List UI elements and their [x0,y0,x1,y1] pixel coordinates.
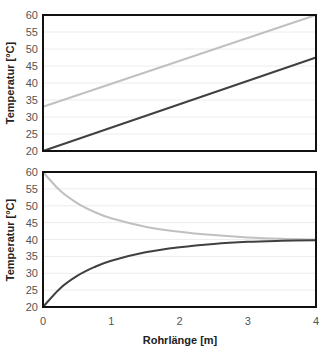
y-tick-label: 55 [26,183,38,195]
series-line [43,15,316,107]
x-axis-label: Rohrlänge [m] [143,334,218,346]
y-tick-label: 50 [26,200,38,212]
x-tick-label: 2 [176,315,182,327]
x-tick-label: 4 [313,315,319,327]
y-tick-label: 45 [26,60,38,72]
chart-figure: 202530354045505560 202530354045505560012… [0,0,327,351]
y-tick-label: 40 [26,234,38,246]
y-tick-label: 20 [26,145,38,157]
bottom-panel: 20253035404550556001234 [26,166,319,327]
y-tick-label: 50 [26,43,38,55]
y-tick-label: 30 [26,111,38,123]
x-tick-label: 1 [108,315,114,327]
y-tick-label: 60 [26,166,38,178]
y-axis-label-top: Temperatur [°C] [4,41,16,124]
series-line [43,58,316,152]
x-tick-label: 0 [40,315,46,327]
y-tick-label: 25 [26,128,38,140]
y-tick-label: 60 [26,9,38,21]
y-tick-label: 55 [26,26,38,38]
y-tick-label: 30 [26,267,38,279]
y-tick-label: 25 [26,284,38,296]
x-tick-label: 3 [245,315,251,327]
y-tick-label: 35 [26,250,38,262]
y-axis-label-bottom: Temperatur [°C] [4,198,16,281]
y-tick-label: 35 [26,94,38,106]
y-tick-label: 40 [26,77,38,89]
top-panel: 202530354045505560 [26,9,316,157]
y-tick-label: 45 [26,217,38,229]
y-tick-label: 20 [26,301,38,313]
